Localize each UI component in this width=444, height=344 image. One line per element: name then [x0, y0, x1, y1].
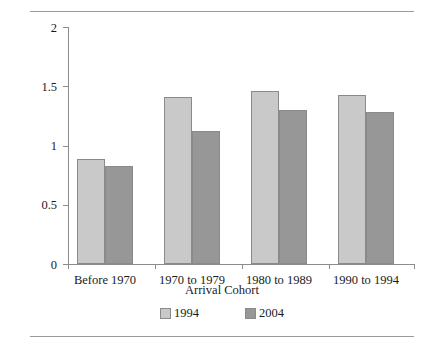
x-axis-tick [68, 264, 69, 269]
legend-label: 2004 [259, 306, 284, 321]
bar [366, 112, 394, 264]
bar [105, 166, 133, 264]
y-axis-tick: 2 [63, 27, 68, 28]
y-axis-tick-label: 0.5 [41, 198, 57, 213]
bar [279, 110, 307, 264]
legend-swatch [245, 308, 256, 319]
y-axis-tick-label: 0 [51, 257, 57, 272]
y-axis-tick-label: 2 [51, 20, 57, 35]
legend-swatch [160, 308, 171, 319]
y-axis-line [68, 27, 69, 265]
x-axis-tick [155, 264, 156, 269]
bar [164, 97, 192, 264]
bar [77, 159, 105, 264]
plot-area: 00.511.52 Before 19701970 to 19791980 to… [68, 27, 415, 264]
y-axis-tick-label: 1.5 [41, 79, 57, 94]
x-axis-tick [414, 264, 415, 269]
legend-item: 2004 [245, 306, 284, 321]
x-axis-tick [329, 264, 330, 269]
x-axis-tick [242, 264, 243, 269]
bar [251, 91, 279, 264]
figure-rule-bottom [30, 336, 414, 337]
legend-label: 1994 [174, 306, 199, 321]
bar [192, 131, 220, 264]
chart-legend: 19942004 [0, 306, 444, 321]
figure-caption-clipped [30, 0, 414, 10]
y-axis-tick-label: 1 [51, 139, 57, 154]
legend-item: 1994 [160, 306, 199, 321]
y-axis-tick: 1.5 [63, 86, 68, 87]
y-axis-tick: 0.5 [63, 205, 68, 206]
bar [338, 95, 366, 264]
figure-container: 00.511.52 Before 19701970 to 19791980 to… [0, 0, 444, 344]
x-axis-title: Arrival Cohort [0, 283, 444, 298]
y-axis-tick: 1 [63, 146, 68, 147]
figure-rule-top [30, 11, 414, 12]
